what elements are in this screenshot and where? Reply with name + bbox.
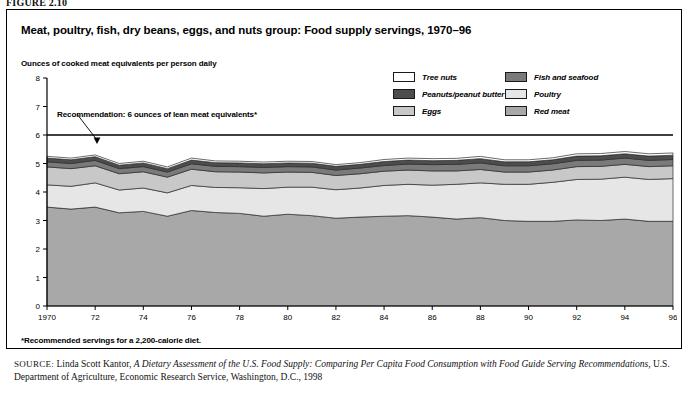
page-title: Meat, poultry, fish, dry beans, eggs, an… bbox=[21, 24, 471, 36]
source-title: A Dietary Assessment of the U.S. Food Su… bbox=[134, 359, 648, 369]
source-author: Linda Scott Kantor, bbox=[54, 359, 134, 369]
y-axis-tick-label: 5 bbox=[36, 160, 41, 169]
x-axis-tick-label: 86 bbox=[428, 313, 437, 322]
source-note: SOURCE: Linda Scott Kantor, A Dietary As… bbox=[14, 358, 678, 384]
y-axis-tick-label: 4 bbox=[36, 188, 41, 197]
source-label: SOURCE: bbox=[14, 359, 54, 369]
x-axis-tick-label: 76 bbox=[187, 313, 196, 322]
x-axis-tick-label: 72 bbox=[91, 313, 100, 322]
y-axis-title: Ounces of cooked meat equivalents per pe… bbox=[21, 59, 217, 68]
y-axis-tick-label: 6 bbox=[36, 131, 41, 140]
figure-label: FIGURE 2.10 bbox=[6, 0, 67, 8]
y-axis-tick-label: 3 bbox=[36, 217, 41, 226]
x-axis-tick-label: 1970 bbox=[38, 313, 56, 322]
x-axis-tick-label: 78 bbox=[235, 313, 244, 322]
x-axis-tick-label: 92 bbox=[572, 313, 581, 322]
x-axis-tick-label: 94 bbox=[620, 313, 629, 322]
recommendation-annotation: Recommendation: 6 ounces of lean meat eq… bbox=[57, 110, 257, 119]
x-axis-tick-label: 90 bbox=[524, 313, 533, 322]
chart-footnote: *Recommended servings for a 2,200-calori… bbox=[21, 336, 201, 345]
area-band-red-meat bbox=[47, 207, 673, 306]
y-axis-tick-label: 2 bbox=[36, 245, 41, 254]
x-axis-tick-label: 80 bbox=[283, 313, 292, 322]
x-axis-tick-label: 82 bbox=[331, 313, 340, 322]
x-axis-tick-label: 88 bbox=[476, 313, 485, 322]
y-axis-tick-label: 1 bbox=[36, 274, 41, 283]
figure-panel: Meat, poultry, fish, dry beans, eggs, an… bbox=[6, 9, 682, 349]
annotation-arrow-head bbox=[94, 137, 101, 144]
y-axis-tick-label: 7 bbox=[36, 103, 41, 112]
y-axis-tick-label: 0 bbox=[36, 302, 41, 311]
x-axis-tick-label: 74 bbox=[139, 313, 148, 322]
x-axis-tick-label: 84 bbox=[380, 313, 389, 322]
x-axis-tick-label: 96 bbox=[669, 313, 677, 322]
y-axis-tick-label: 8 bbox=[36, 74, 41, 83]
